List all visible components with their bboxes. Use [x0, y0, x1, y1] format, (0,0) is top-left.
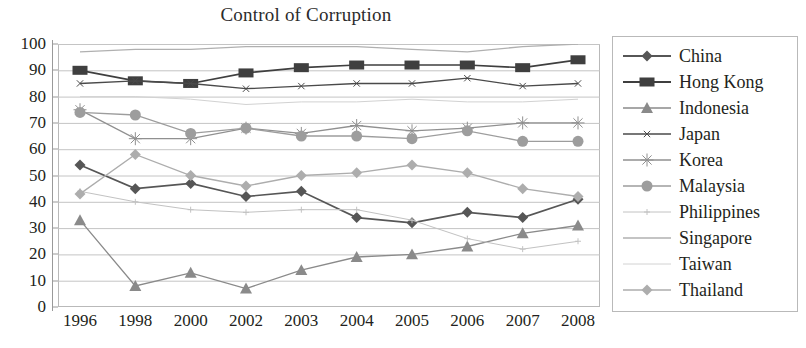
series-malaysia	[75, 107, 584, 147]
legend-item-label: Korea	[673, 150, 723, 171]
legend-item-label: Taiwan	[673, 254, 732, 275]
chart-series-svg	[58, 44, 600, 307]
y-axis-tick-label: 60	[29, 139, 46, 159]
data-point-marker	[407, 159, 418, 170]
data-point-marker	[75, 107, 86, 118]
data-point-marker	[296, 131, 307, 142]
legend-item-taiwan[interactable]: Taiwan	[621, 251, 797, 277]
data-point-marker	[351, 212, 362, 223]
data-point-marker	[642, 285, 653, 296]
legend-item-label: Thailand	[673, 280, 743, 301]
data-point-marker	[351, 131, 362, 142]
data-point-marker	[516, 116, 529, 129]
x-axis-tick-label: 2005	[395, 311, 429, 331]
data-point-marker	[462, 167, 473, 178]
legend-item-label: Hong Kong	[673, 72, 764, 93]
data-point-marker	[575, 238, 581, 244]
x-axis-tick-label: 2008	[561, 311, 595, 331]
y-axis-tick-mark	[52, 254, 58, 255]
data-point-marker	[74, 214, 86, 225]
y-axis-tick-label: 20	[29, 244, 46, 264]
y-axis: 1009080706050403020100	[0, 44, 52, 307]
y-axis-tick-label: 10	[29, 271, 46, 291]
data-point-marker	[75, 159, 86, 170]
data-point-marker	[241, 191, 252, 202]
y-axis-tick-mark	[52, 70, 58, 71]
data-point-marker	[464, 236, 470, 242]
data-point-marker	[350, 119, 363, 132]
legend-key-square-icon	[621, 71, 673, 93]
data-point-marker	[349, 61, 364, 70]
legend-key-asterisk-icon	[621, 149, 673, 171]
data-point-marker	[294, 63, 309, 72]
legend-item-label: Japan	[673, 124, 720, 145]
legend-key-triangle-icon	[621, 97, 673, 119]
legend-item-china[interactable]: China	[621, 43, 797, 69]
x-axis-tick-label: 1998	[118, 311, 152, 331]
data-point-marker	[241, 181, 252, 192]
series-japan	[77, 75, 581, 92]
data-point-marker	[572, 116, 585, 129]
y-axis-tick-label: 0	[38, 297, 47, 317]
series-line	[80, 78, 578, 89]
legend-key-thin-x-icon	[621, 123, 673, 145]
x-axis-tick-label: 2007	[506, 311, 540, 331]
data-point-marker	[185, 267, 197, 278]
y-axis-tick-mark	[52, 149, 58, 150]
y-axis-tick-mark	[52, 122, 58, 123]
data-point-marker	[462, 125, 473, 136]
data-point-marker	[644, 209, 650, 215]
legend-item-thailand[interactable]: Thailand	[621, 277, 797, 303]
data-point-marker	[73, 66, 88, 75]
legend-item-label: Singapore	[673, 228, 752, 249]
data-point-marker	[185, 170, 196, 181]
data-point-marker	[515, 63, 530, 72]
legend-key-light-diamond-icon	[621, 279, 673, 301]
data-point-marker	[298, 207, 304, 213]
data-point-marker	[296, 186, 307, 197]
x-axis-tick-label: 1996	[63, 311, 97, 331]
x-axis-tick-label: 2000	[174, 311, 208, 331]
legend-item-japan[interactable]: Japan	[621, 121, 797, 147]
legend-item-label: Malaysia	[673, 176, 745, 197]
data-point-marker	[462, 207, 473, 218]
data-point-marker	[296, 170, 307, 181]
data-point-marker	[520, 246, 526, 252]
legend-key-line-icon	[621, 227, 673, 249]
series-philippines	[77, 188, 581, 252]
legend-item-label: China	[673, 46, 722, 67]
data-point-marker	[188, 207, 194, 213]
legend-item-hong-kong[interactable]: Hong Kong	[621, 69, 797, 95]
y-axis-tick-label: 30	[29, 218, 46, 238]
series-line	[80, 110, 578, 139]
legend-item-singapore[interactable]: Singapore	[621, 225, 797, 251]
y-axis-tick-label: 50	[29, 166, 46, 186]
data-point-marker	[130, 183, 141, 194]
y-axis-tick-mark	[52, 280, 58, 281]
series-line	[80, 112, 578, 141]
y-axis-tick-label: 90	[29, 60, 46, 80]
chart-title: Control of Corruption	[0, 4, 612, 26]
data-point-marker	[185, 128, 196, 139]
y-axis-tick-mark	[52, 201, 58, 202]
series-singapore	[80, 44, 578, 52]
series-taiwan	[80, 97, 578, 105]
data-point-marker	[243, 209, 249, 215]
data-point-marker	[517, 212, 528, 223]
data-point-marker	[130, 149, 141, 160]
data-point-marker	[239, 68, 254, 77]
x-axis-tick-label: 2006	[450, 311, 484, 331]
y-axis-tick-label: 80	[29, 87, 46, 107]
data-point-marker	[573, 136, 584, 147]
y-axis-tick-label: 70	[29, 113, 46, 133]
x-axis-tick-label: 2002	[229, 311, 263, 331]
legend-item-philippines[interactable]: Philippines	[621, 199, 797, 225]
data-point-marker	[517, 183, 528, 194]
legend-item-malaysia[interactable]: Malaysia	[621, 173, 797, 199]
data-point-marker	[642, 51, 653, 62]
x-axis-tick-label: 2003	[284, 311, 318, 331]
plot-area	[58, 44, 600, 307]
legend-item-indonesia[interactable]: Indonesia	[621, 95, 797, 121]
data-point-marker	[642, 181, 653, 192]
legend-item-korea[interactable]: Korea	[621, 147, 797, 173]
